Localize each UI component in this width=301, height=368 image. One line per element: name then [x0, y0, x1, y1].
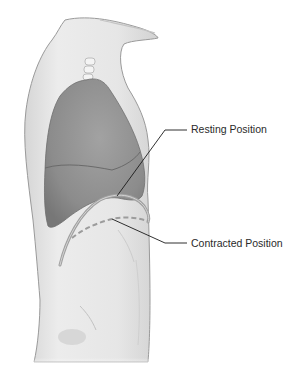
diaphragm-diagram: Resting Position Contracted Position [0, 0, 301, 368]
contracted-position-label: Contracted Position [191, 238, 283, 249]
torso-illustration [0, 0, 301, 368]
resting-position-label: Resting Position [191, 124, 267, 135]
trachea [83, 58, 95, 80]
